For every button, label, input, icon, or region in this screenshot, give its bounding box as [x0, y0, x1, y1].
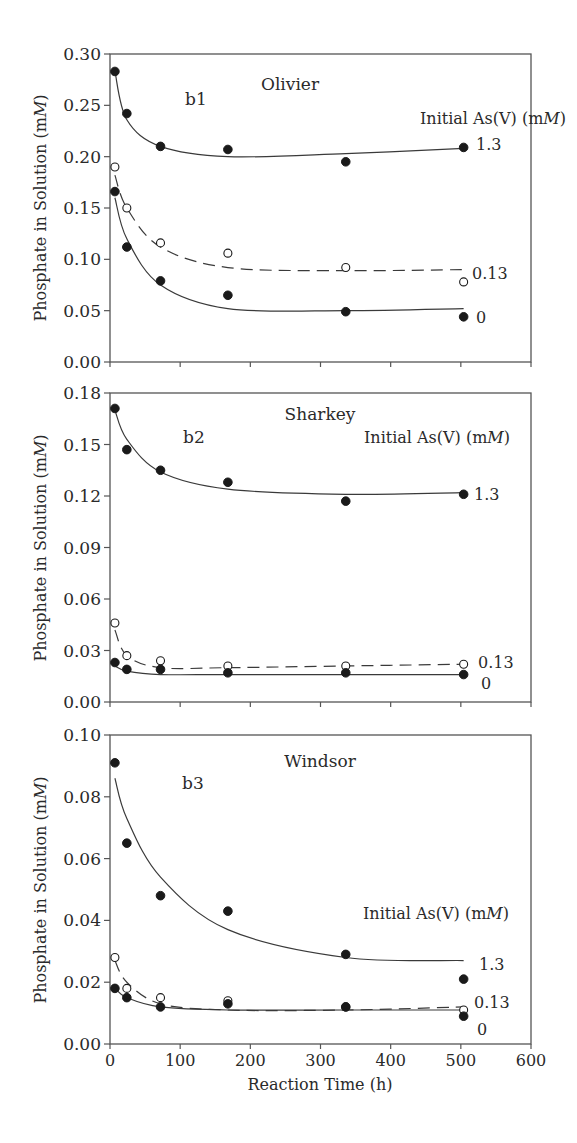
chart-canvas: 0.000.050.100.150.200.250.30 Olivier b1 … [0, 0, 577, 1143]
fit-curves [115, 410, 464, 675]
data-points [111, 67, 468, 321]
x-tick-label: 600 [516, 1051, 547, 1070]
data-point-0.13 [224, 249, 232, 257]
data-point-1.3 [156, 142, 165, 151]
x-tick-label: 200 [235, 1051, 266, 1070]
x-axis-ticks [110, 1044, 531, 1049]
data-point-0.13 [111, 619, 119, 627]
x-axis-tick-labels: 0100200300400500600 [105, 1051, 546, 1070]
y-tick-label: 0.04 [63, 910, 101, 930]
y-axis-ticks: 0.000.050.100.150.200.250.30 [63, 44, 110, 372]
y-tick-label: 0.06 [63, 849, 101, 869]
y-axis-label-text: Phosphate in Solution (mM) [31, 94, 50, 321]
data-point-0 [341, 1003, 350, 1012]
data-point-0.13 [460, 278, 468, 286]
data-point-1.3 [341, 950, 350, 959]
panel-id-label: b3 [182, 773, 204, 793]
fit-curve-0.13 [115, 175, 464, 271]
panel-id-label: b2 [183, 427, 205, 447]
y-tick-label: 0.15 [63, 435, 101, 455]
y-tick-label: 0.15 [63, 198, 101, 218]
data-point-1.3 [224, 145, 233, 154]
data-point-0 [156, 1003, 165, 1012]
y-axis-label-b2: Phosphate in Solution (mM) [31, 434, 50, 661]
series-label-1.3: 1.3 [474, 485, 499, 504]
y-tick-label: 0.25 [63, 95, 101, 115]
data-point-0.13 [123, 652, 131, 660]
y-tick-label: 0.06 [63, 589, 101, 609]
data-point-0.13 [157, 239, 165, 247]
data-point-1.3 [156, 466, 165, 475]
plot-frame [110, 735, 531, 1044]
y-tick-label: 0.09 [63, 538, 101, 558]
data-point-0.13 [123, 984, 131, 992]
fit-curves [115, 778, 464, 1010]
data-point-1.3 [459, 490, 468, 499]
x-axis-ticks [110, 362, 531, 367]
series-label-0: 0 [481, 674, 491, 693]
data-point-1.3 [123, 109, 132, 118]
data-point-0.13 [123, 204, 131, 212]
y-tick-label: 0.08 [63, 787, 101, 807]
data-point-1.3 [341, 497, 350, 506]
y-tick-label: 0.10 [63, 725, 101, 745]
y-tick-label: 0.02 [63, 972, 101, 992]
x-axis-ticks [110, 702, 531, 707]
y-tick-label: 0.30 [63, 44, 101, 64]
x-tick-label: 0 [105, 1051, 115, 1070]
data-point-1.3 [111, 759, 120, 768]
data-points [111, 759, 468, 1021]
data-point-0 [156, 665, 165, 674]
fit-curve-0 [115, 988, 464, 1010]
panel-b1: 0.000.050.100.150.200.250.30 Olivier b1 … [63, 44, 566, 372]
fit-curve-0.13 [115, 630, 464, 669]
data-point-1.3 [224, 907, 233, 916]
data-point-0.13 [111, 953, 119, 961]
figure: 0.000.050.100.150.200.250.30 Olivier b1 … [0, 0, 577, 1143]
data-point-0.13 [157, 657, 165, 665]
data-point-0 [459, 313, 468, 322]
y-tick-label: 0.05 [63, 301, 101, 321]
series-label-0: 0 [477, 1020, 487, 1039]
legend-title: Initial As(V) (mM) [420, 109, 566, 128]
y-tick-label: 0.12 [63, 486, 101, 506]
series-label-0: 0 [476, 308, 486, 327]
fit-curve-0.13 [115, 961, 464, 1011]
y-tick-label: 0.03 [63, 641, 101, 661]
data-point-0 [111, 658, 120, 667]
x-tick-label: 300 [305, 1051, 336, 1070]
y-axis-label-text: Phosphate in Solution (mM) [31, 434, 50, 661]
y-tick-label: 0.18 [63, 383, 101, 403]
data-point-0 [459, 1012, 468, 1021]
data-point-0 [123, 665, 132, 674]
data-point-0 [341, 669, 350, 678]
data-point-1.3 [156, 891, 165, 900]
data-point-1.3 [459, 143, 468, 152]
data-point-0 [111, 984, 120, 993]
data-point-0 [123, 243, 132, 252]
data-point-1.3 [341, 158, 350, 167]
y-tick-label: 0.00 [63, 692, 101, 712]
data-point-0 [341, 307, 350, 316]
x-axis-label: Reaction Time (h) [248, 1075, 393, 1094]
data-point-0 [224, 1000, 233, 1009]
y-axis-label-b1: Phosphate in Solution (mM) [31, 94, 50, 321]
fit-curve-1.3 [115, 778, 464, 961]
series-label-0.13: 0.13 [474, 993, 510, 1012]
y-axis-ticks: 0.000.030.060.090.120.150.18 [63, 383, 110, 712]
y-tick-label: 0.20 [63, 147, 101, 167]
data-point-1.3 [459, 975, 468, 984]
panel-title: Sharkey [285, 404, 356, 424]
panel-b2: 0.000.030.060.090.120.150.18 Sharkey b2 … [63, 383, 531, 712]
x-tick-label: 400 [375, 1051, 406, 1070]
x-tick-label: 500 [446, 1051, 477, 1070]
series-label-0.13: 0.13 [472, 264, 508, 283]
y-axis-ticks: 0.000.020.040.060.080.10 [63, 725, 110, 1054]
x-tick-label: 100 [165, 1051, 196, 1070]
series-label-1.3: 1.3 [476, 135, 501, 154]
data-point-0 [156, 277, 165, 286]
data-point-0.13 [460, 660, 468, 668]
series-label-1.3: 1.3 [479, 955, 504, 974]
data-point-0 [111, 187, 120, 196]
fit-curve-0 [115, 198, 464, 312]
